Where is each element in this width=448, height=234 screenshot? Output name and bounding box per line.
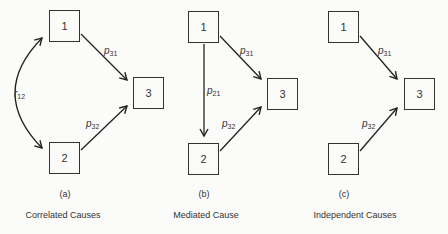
- label-p32: p32: [362, 118, 375, 130]
- arrow-p31-b: [220, 36, 261, 79]
- node-3: 3: [133, 77, 164, 109]
- arrow-p31-c: [360, 36, 397, 79]
- panel-caption: Mediated Cause: [173, 210, 239, 220]
- node-3: 3: [267, 78, 298, 110]
- node-2: 2: [49, 142, 80, 174]
- node-3: 3: [404, 78, 435, 110]
- panel-caption: Correlated Causes: [25, 210, 100, 220]
- label-p31: p31: [104, 45, 117, 57]
- label-p31: p31: [240, 45, 253, 57]
- label-p21: p21: [207, 85, 220, 97]
- panel-letter: (c): [339, 189, 350, 199]
- node-1: 1: [49, 10, 80, 42]
- panel-letter: (a): [60, 189, 71, 199]
- label-p32: p32: [86, 118, 99, 130]
- label-r12: r12: [14, 88, 25, 100]
- node-1: 1: [328, 11, 359, 43]
- panel-caption: Independent Causes: [313, 210, 396, 220]
- panel-letter: (b): [199, 189, 210, 199]
- label-p32: p32: [222, 118, 235, 130]
- node-2: 2: [188, 143, 219, 175]
- node-1: 1: [188, 11, 219, 43]
- label-p31: p31: [378, 45, 391, 57]
- node-2: 2: [328, 143, 359, 175]
- arrow-p31-a: [81, 34, 127, 80]
